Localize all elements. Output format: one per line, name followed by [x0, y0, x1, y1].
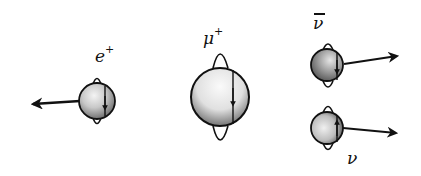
neutrino-label: ν — [347, 150, 357, 167]
diagram-canvas — [0, 0, 421, 176]
neutrino-particle — [311, 107, 396, 150]
positron-sphere-icon — [79, 83, 115, 119]
positron-particle — [33, 79, 115, 124]
muon-spin-loop-top — [213, 54, 228, 68]
antineutrino-spin-loop-bottom — [323, 81, 333, 87]
antineutrino-momentum-arrow-icon — [344, 56, 397, 64]
antineutrino-sphere-icon — [311, 49, 343, 81]
muon-spin-loop-bottom — [213, 126, 228, 140]
neutrino-momentum-arrow-icon — [343, 128, 396, 133]
neutrino-sphere-icon — [311, 112, 343, 144]
muon-sphere-icon — [191, 68, 249, 126]
muon-decay-diagram: e+ μ+ ν ν — [0, 0, 421, 176]
antineutrino-label: ν — [313, 15, 323, 32]
muon-particle — [191, 54, 249, 140]
muon-label: μ+ — [203, 28, 223, 47]
antineutrino-particle — [311, 44, 397, 87]
positron-label: e+ — [95, 46, 114, 65]
positron-momentum-arrow-icon — [33, 101, 80, 104]
